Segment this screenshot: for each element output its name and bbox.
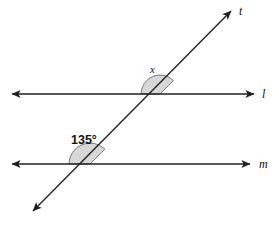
angle-label-x: x (150, 64, 155, 75)
angle-label-135: 135° (71, 134, 97, 147)
geometry-figure: t l m x 135° (0, 0, 279, 226)
line-t (33, 11, 231, 211)
geometry-canvas (0, 0, 279, 226)
line-label-l: l (262, 88, 265, 100)
line-label-t: t (239, 5, 242, 17)
angle-sector-x (141, 75, 173, 94)
line-label-m: m (259, 158, 268, 170)
